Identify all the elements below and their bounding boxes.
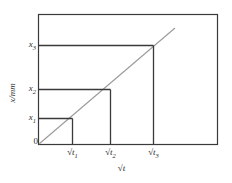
figure-container: x/mm √t 0 x1 x2 x3 √t1 √t2 √t3	[0, 0, 232, 183]
x-tick-base-t2: √t	[104, 147, 112, 157]
y-tick-label-x1: x1	[16, 112, 36, 122]
x-tick-base-t3: √t	[147, 147, 155, 157]
origin-label: 0	[28, 136, 38, 146]
y-tick-sub-x3: 3	[33, 44, 36, 51]
x-tick-sub-t3: 3	[156, 152, 159, 159]
x-tick-label-t2: √t2	[95, 147, 125, 157]
x-axis-title-text: √t	[117, 163, 125, 173]
x-tick-label-t1: √t1	[57, 147, 87, 157]
x-axis-title: √t	[104, 163, 138, 173]
y-tick-sub-x1: 1	[33, 117, 36, 124]
x-tick-sub-t1: 1	[75, 152, 78, 159]
y-tick-label-x2: x2	[16, 83, 36, 93]
x-tick-label-t3: √t3	[138, 147, 168, 157]
x-tick-sub-t2: 2	[113, 152, 116, 159]
y-tick-label-x3: x3	[16, 39, 36, 49]
x-tick-base-t1: √t	[66, 147, 74, 157]
y-tick-sub-x2: 2	[33, 88, 36, 95]
plot-frame	[39, 15, 218, 145]
